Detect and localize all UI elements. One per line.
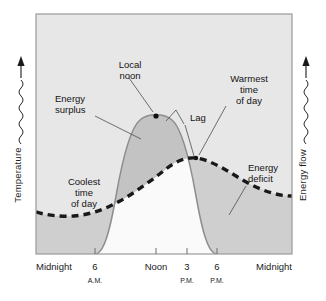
- local-noon-marker: [153, 113, 158, 118]
- coolest-label-line1: Coolest: [68, 176, 101, 187]
- local-noon-label-line1: Local: [119, 59, 142, 70]
- energy-deficit-label-line1: Energy: [248, 162, 278, 173]
- left-axis-group: Temperature: [12, 56, 25, 203]
- energy-surplus-label-line2: surplus: [55, 104, 86, 115]
- energy-surplus-label-line1: Energy: [55, 93, 85, 104]
- wavy-line-icon: [19, 80, 23, 144]
- warmest-time-marker: [194, 156, 198, 160]
- up-arrow-icon: [17, 56, 24, 78]
- coolest-label-line3: of day: [71, 198, 97, 209]
- xtick-label-midnight-left: Midnight: [36, 261, 72, 272]
- coolest-label-line2: time: [75, 187, 93, 198]
- right-axis-label: Energy flow: [297, 149, 308, 201]
- local-noon-label-line2: noon: [119, 70, 140, 81]
- figure-container: Local noon Energy surplus Lag Warmest ti…: [0, 0, 326, 301]
- xtick-sub-3pm: P.M.: [180, 277, 194, 284]
- xtick-sub-6pm: P.M.: [210, 277, 224, 284]
- warmest-label-line1: Warmest: [230, 73, 268, 84]
- xtick-label-6pm: 6: [214, 261, 219, 272]
- xtick-sub-6am: A.M.: [88, 277, 102, 284]
- energy-deficit-label-line2: deficit: [248, 173, 273, 184]
- wavy-line-icon-right: [304, 80, 308, 144]
- warmest-label-line2: time: [240, 84, 258, 95]
- xtick-label-3pm: 3: [184, 261, 189, 272]
- xtick-label-6am: 6: [92, 261, 97, 272]
- xtick-label-midnight-right: Midnight: [256, 261, 292, 272]
- right-axis-group: Energy flow: [297, 56, 310, 201]
- left-axis-label: Temperature: [12, 147, 23, 203]
- plot-area: [36, 14, 292, 254]
- up-arrow-icon-right: [302, 56, 309, 78]
- lag-label: Lag: [190, 112, 206, 123]
- xtick-label-noon: Noon: [145, 261, 168, 272]
- warmest-label-line3: of day: [236, 95, 262, 106]
- daily-energy-temperature-chart: Local noon Energy surplus Lag Warmest ti…: [0, 0, 326, 301]
